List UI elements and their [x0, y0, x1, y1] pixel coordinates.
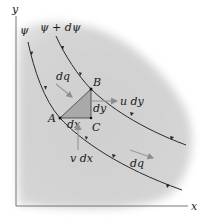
- x-axis-label: x: [191, 200, 198, 213]
- dq-lower-label: dq: [130, 157, 144, 170]
- point-a-label: A: [47, 112, 56, 125]
- point-b-label: B: [92, 76, 101, 89]
- stream-function-diagram: y x ψ ψ + dψ A B C dy dx u dy: [0, 0, 205, 222]
- streamline-psi-plus-dpsi-label: ψ + dψ: [40, 21, 81, 34]
- u-dy-label: u dy: [120, 95, 145, 108]
- v-dx-label: v dx: [70, 152, 94, 165]
- streamline-psi-label: ψ: [20, 24, 29, 37]
- dq-upper-label: dq: [56, 70, 70, 83]
- segment-dy-label: dy: [93, 102, 107, 115]
- point-c-label: C: [92, 121, 101, 134]
- y-axis-label: y: [11, 3, 19, 16]
- flow-region: [18, 22, 192, 208]
- segment-dx-label: dx: [67, 118, 81, 131]
